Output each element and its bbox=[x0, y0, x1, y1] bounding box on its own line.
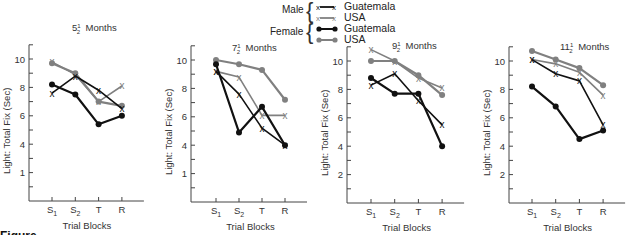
y-axis-label: Light: Total Fix (Sec) bbox=[163, 89, 174, 175]
x-tick-label: S1 bbox=[211, 205, 221, 218]
dot-line-gray-icon bbox=[316, 35, 338, 45]
data-point bbox=[600, 128, 606, 134]
x-line-gray-icon: xx bbox=[316, 13, 338, 23]
data-point bbox=[96, 121, 102, 127]
data-point: x bbox=[96, 85, 101, 96]
data-point bbox=[72, 92, 78, 98]
x-tick-label: S2 bbox=[234, 205, 244, 218]
data-point bbox=[392, 91, 398, 97]
x-tick-label: S1 bbox=[366, 206, 376, 219]
svg-text:x: x bbox=[332, 14, 336, 23]
x-tick-label: T bbox=[259, 205, 265, 216]
y-tick-label: 10 bbox=[494, 56, 505, 67]
data-point bbox=[49, 82, 55, 88]
data-point bbox=[119, 113, 125, 119]
data-point: x bbox=[237, 89, 242, 100]
legend-female-label: Female bbox=[270, 26, 303, 37]
data-point bbox=[415, 91, 421, 97]
x-tick-label: R bbox=[282, 205, 289, 216]
series-male-guatemala: xxxx bbox=[369, 68, 445, 130]
chart-7-months: 108641S1S2TRTrial BlocksLight: Total Fix… bbox=[163, 42, 307, 232]
data-point bbox=[236, 129, 242, 135]
data-point bbox=[576, 136, 582, 142]
legend-male-label: Male bbox=[282, 4, 304, 15]
y-axis-label: Light: Total Fix (Sec) bbox=[319, 90, 330, 176]
x-tick-label: R bbox=[118, 204, 125, 215]
x-tick-label: S1 bbox=[527, 206, 537, 219]
chart-title: 512 Months bbox=[72, 22, 117, 35]
y-tick-label: 10 bbox=[332, 56, 343, 67]
y-tick-label: 10 bbox=[176, 55, 187, 66]
data-point bbox=[236, 61, 242, 67]
chart-title: 1112 Months bbox=[560, 41, 610, 54]
y-tick-label: 8 bbox=[500, 84, 505, 95]
data-point: x bbox=[577, 75, 582, 86]
chart-9-months: 108642S1S2TRTrial BlocksLight: Total Fix… bbox=[319, 40, 464, 233]
x-tick-label: S2 bbox=[551, 206, 561, 219]
y-tick-label: 4 bbox=[500, 141, 505, 152]
y-tick-label: 6 bbox=[338, 112, 343, 123]
x-axis-label: Trial Blocks bbox=[382, 222, 431, 233]
x-tick-label: T bbox=[576, 206, 582, 217]
svg-text:x: x bbox=[316, 14, 320, 23]
data-point bbox=[415, 72, 421, 78]
x-tick-label: S2 bbox=[390, 206, 400, 219]
chart-5-months: 108641S1S2TRTrial BlocksLight: Total Fix… bbox=[1, 22, 144, 231]
legend-male-brace: { bbox=[306, 1, 313, 21]
figure-caption: Figure bbox=[0, 229, 37, 235]
series-male-usa: xxxx bbox=[214, 66, 288, 121]
legend-entry-female-usa: USA bbox=[316, 34, 366, 45]
y-tick-label: 6 bbox=[182, 111, 187, 122]
x-tick-label: R bbox=[439, 206, 446, 217]
data-point bbox=[392, 58, 398, 64]
data-point: x bbox=[119, 80, 124, 91]
data-point: x bbox=[440, 119, 445, 130]
x-axis-label: Trial Blocks bbox=[63, 220, 112, 231]
data-point bbox=[576, 65, 582, 71]
data-point bbox=[49, 60, 55, 66]
chart-11-months: 108642S1S2TRTrial BlocksLight: Total Fix… bbox=[481, 41, 625, 233]
data-point bbox=[439, 92, 445, 98]
x-axis-label: Trial Blocks bbox=[226, 221, 275, 232]
data-point bbox=[213, 61, 219, 67]
x-tick-label: S1 bbox=[47, 204, 57, 217]
legend-label: USA bbox=[344, 34, 366, 45]
series-male-guatemala: xxxx bbox=[530, 54, 606, 130]
y-tick-label: 4 bbox=[182, 140, 187, 151]
x-tick-label: T bbox=[415, 206, 421, 217]
data-point bbox=[368, 58, 374, 64]
data-point: x bbox=[440, 82, 445, 93]
x-tick-label: T bbox=[96, 204, 102, 215]
data-point bbox=[439, 143, 445, 149]
data-point bbox=[259, 104, 265, 110]
y-tick-label: 10 bbox=[14, 54, 25, 65]
y-tick-label: 2 bbox=[338, 169, 343, 180]
data-point: x bbox=[553, 68, 558, 79]
svg-text:x: x bbox=[316, 3, 320, 12]
data-point: x bbox=[50, 88, 55, 99]
x-tick-label: S2 bbox=[70, 204, 80, 217]
y-tick-label: 8 bbox=[20, 82, 25, 93]
y-tick-label: 6 bbox=[20, 110, 25, 121]
data-point bbox=[259, 67, 265, 73]
y-tick-label: 8 bbox=[338, 84, 343, 95]
y-axis-label: Light: Total Fix (Sec) bbox=[1, 88, 12, 174]
series-female-guatemala bbox=[213, 61, 288, 148]
data-point: x bbox=[283, 110, 288, 121]
data-point bbox=[553, 103, 559, 109]
data-point bbox=[529, 84, 535, 90]
data-point: x bbox=[119, 103, 124, 114]
data-point bbox=[600, 82, 606, 88]
data-point: x bbox=[73, 71, 78, 82]
x-tick-label: R bbox=[600, 206, 607, 217]
data-point: x bbox=[392, 68, 397, 79]
series-female-usa bbox=[368, 58, 445, 98]
data-point: x bbox=[260, 123, 265, 134]
data-point bbox=[553, 57, 559, 63]
series-male-usa: xxxx bbox=[50, 56, 125, 107]
data-point: x bbox=[369, 44, 374, 55]
data-point: x bbox=[237, 72, 242, 83]
y-tick-label: 1 bbox=[20, 167, 25, 178]
x-line-black-icon: xx bbox=[316, 2, 338, 12]
data-point bbox=[96, 99, 102, 105]
